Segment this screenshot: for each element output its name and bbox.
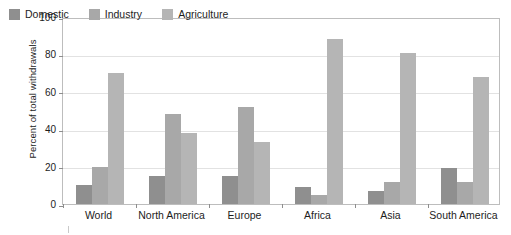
- y-axis-tick-label: 20: [30, 163, 56, 173]
- x-axis-tickmark: [209, 204, 210, 208]
- legend-label: Agriculture: [178, 9, 228, 20]
- gridline: [63, 56, 499, 57]
- bar-group: [76, 19, 124, 204]
- bar: [368, 191, 384, 204]
- x-axis-tickmark: [282, 204, 283, 208]
- bar-chart: Percent of total withdrawals 02040608010…: [0, 0, 511, 235]
- y-axis-tickmark: [59, 56, 63, 57]
- bar: [238, 107, 254, 204]
- y-axis-tickmark: [59, 131, 63, 132]
- y-axis-tickmark: [59, 93, 63, 94]
- bar: [254, 142, 270, 204]
- bar: [327, 39, 343, 204]
- legend-label: Industry: [105, 9, 142, 20]
- bar: [149, 176, 165, 204]
- gridline: [63, 93, 499, 94]
- bar: [181, 133, 197, 204]
- bar: [384, 182, 400, 204]
- scan-artifact: [68, 226, 69, 233]
- chart-legend: DomesticIndustryAgriculture: [9, 7, 248, 22]
- bar-group: [368, 19, 416, 204]
- bar: [457, 182, 473, 204]
- bar: [441, 168, 457, 204]
- bar: [222, 176, 238, 204]
- legend-item-agriculture[interactable]: Agriculture: [162, 9, 228, 20]
- y-axis-tickmark: [59, 168, 63, 169]
- bar: [165, 114, 181, 204]
- bar-group: [441, 19, 489, 204]
- legend-item-industry[interactable]: Industry: [89, 9, 142, 20]
- y-axis-tick-label: 60: [30, 88, 56, 98]
- legend-swatch-icon: [89, 9, 100, 20]
- legend-swatch-icon: [9, 9, 20, 20]
- bar: [400, 53, 416, 204]
- legend-swatch-icon: [162, 9, 173, 20]
- bar: [295, 187, 311, 204]
- bar: [92, 167, 108, 204]
- legend-item-domestic[interactable]: Domestic: [9, 9, 69, 20]
- bar-group: [295, 19, 343, 204]
- x-axis-tickmark: [136, 204, 137, 208]
- x-axis-tickmark: [63, 204, 64, 208]
- bar-group: [149, 19, 197, 204]
- plot-area: [62, 18, 500, 205]
- bar: [76, 185, 92, 204]
- x-axis-tickmark: [355, 204, 356, 208]
- y-axis-tick-labels: 020406080100: [26, 0, 56, 235]
- gridline: [63, 131, 499, 132]
- x-axis-tickmark: [428, 204, 429, 208]
- gridline: [63, 168, 499, 169]
- y-axis-tick-label: 40: [30, 125, 56, 135]
- x-axis-category-labels: WorldNorth AmericaEuropeAfricaAsiaSouth …: [62, 209, 500, 225]
- bar-group: [222, 19, 270, 204]
- legend-label: Domestic: [25, 9, 69, 20]
- bar: [473, 77, 489, 204]
- y-axis-tick-label: 80: [30, 50, 56, 60]
- x-axis-label-south-america: South America: [391, 209, 511, 222]
- bar: [108, 73, 124, 204]
- bar: [311, 195, 327, 204]
